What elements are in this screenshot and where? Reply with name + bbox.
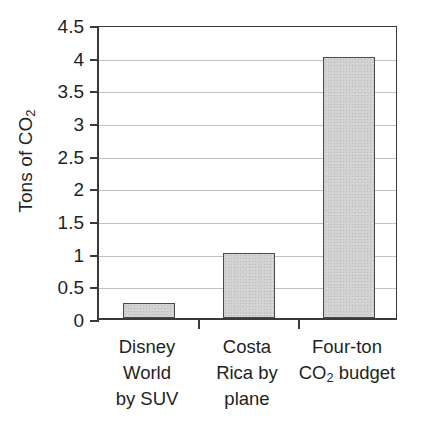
y-axis-tick-label: 1	[73, 245, 84, 264]
y-axis-tick-label: 0	[73, 311, 84, 330]
y-axis-tick-mark	[90, 91, 99, 93]
y-axis-tick-label: 0.5	[58, 278, 84, 297]
bar-chart-figure: Tons of CO2 00.511.522.533.544.5 DisneyW…	[0, 0, 424, 428]
y-axis-tick-mark	[90, 320, 99, 322]
y-axis-tick-labels: 00.511.522.533.544.5	[28, 26, 90, 320]
y-axis-tick-label: 1.5	[58, 213, 84, 232]
x-axis-label-line: Rica by	[197, 360, 297, 386]
x-axis-tick-mark	[198, 318, 200, 329]
y-axis-tick-mark	[90, 255, 99, 257]
y-axis-tick-label: 4.5	[58, 17, 84, 36]
x-axis-label-line: Disney	[97, 334, 197, 360]
x-axis-label-line: by SUV	[97, 386, 197, 412]
y-axis-tick-label: 4	[73, 49, 84, 68]
y-axis-tick-label: 3.5	[58, 82, 84, 101]
bar-3	[323, 57, 375, 318]
y-axis-tick-mark	[90, 222, 99, 224]
x-axis-label-line: plane	[197, 386, 297, 412]
x-axis-category-label: DisneyWorldby SUV	[97, 334, 197, 412]
y-axis-tick-mark	[90, 26, 99, 28]
y-axis-tick-mark	[90, 189, 99, 191]
y-axis-tick-mark	[90, 157, 99, 159]
y-axis-tick-label: 3	[73, 115, 84, 134]
x-axis-label-line: Costa	[197, 334, 297, 360]
y-axis-tick-mark	[90, 59, 99, 61]
y-axis-tick-mark	[90, 124, 99, 126]
x-axis-label-line: CO2 budget	[297, 360, 397, 391]
bar-2	[223, 253, 275, 318]
plot-area	[97, 26, 397, 320]
y-axis-tick-label: 2	[73, 180, 84, 199]
x-axis-label-line: World	[97, 360, 197, 386]
x-axis-tick-mark	[298, 318, 300, 329]
bar-1	[123, 303, 175, 318]
x-axis-category-labels: DisneyWorldby SUVCostaRica byplaneFour-t…	[97, 334, 397, 424]
x-axis-category-label: CostaRica byplane	[197, 334, 297, 412]
y-axis-tick-label: 2.5	[58, 147, 84, 166]
y-axis-tick-mark	[90, 287, 99, 289]
x-axis-label-line: Four-ton	[297, 334, 397, 360]
x-axis-category-label: Four-tonCO2 budget	[297, 334, 397, 391]
